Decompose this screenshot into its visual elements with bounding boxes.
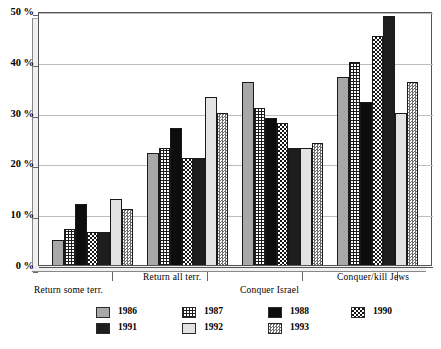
bar: [288, 148, 300, 265]
legend-label: 1992: [204, 322, 223, 332]
bar-chart: 0 %10 %20 %30 %40 %50 % Return some terr…: [0, 0, 441, 349]
y-axis-tick-label: 10 %: [2, 209, 34, 220]
bar: [75, 204, 87, 265]
legend-swatch-icon: [268, 307, 282, 318]
x-axis-category-label: Conquer Israel: [240, 285, 299, 295]
x-axis-tick-mark: [207, 272, 208, 281]
legend-label: 1993: [290, 322, 309, 332]
y-axis-tick-label: 50 %: [2, 6, 34, 17]
bar: [277, 123, 289, 265]
legend-swatch-icon: [351, 307, 365, 318]
bar: [383, 16, 395, 265]
y-axis-tick-label: 30 %: [2, 108, 34, 119]
bar: [159, 148, 171, 265]
legend-label: 1991: [118, 322, 137, 332]
gridline-0: [39, 267, 433, 268]
x-axis-category-label: Return some terr.: [34, 285, 103, 295]
bar: [360, 102, 372, 265]
bar: [395, 113, 407, 265]
bar: [254, 108, 266, 265]
bar: [64, 229, 76, 265]
bar: [182, 158, 194, 265]
y-axis-tick-label: 40 %: [2, 57, 34, 68]
y-axis-tick-label: 0 %: [2, 260, 34, 271]
bar: [122, 209, 134, 265]
legend-swatch-icon: [268, 323, 282, 334]
bar: [265, 118, 277, 265]
legend-swatch-icon: [182, 323, 196, 334]
bar: [193, 158, 205, 265]
y-axis-tick-mark: [33, 272, 38, 273]
bar: [98, 232, 110, 265]
bar: [205, 97, 217, 265]
x-axis-category-label: Return all terr.: [143, 272, 201, 282]
bar: [372, 36, 384, 265]
chart-legend: 1986198719881990199119921993: [96, 307, 366, 337]
bar: [110, 199, 122, 265]
legend-swatch-icon: [96, 307, 110, 318]
x-axis-category-label: Conquer/kill Jews: [337, 272, 409, 282]
bar: [242, 82, 254, 265]
gridline-50: [39, 13, 433, 14]
legend-label: 1990: [373, 306, 392, 316]
bar: [87, 232, 99, 265]
bar: [147, 153, 159, 265]
bar: [217, 113, 229, 265]
bar: [407, 82, 419, 265]
legend-label: 1987: [204, 306, 223, 316]
bar: [300, 148, 312, 265]
plot-area: [38, 12, 432, 266]
legend-swatch-icon: [96, 323, 110, 334]
x-axis-tick-mark: [112, 272, 113, 281]
bar: [337, 77, 349, 265]
legend-label: 1986: [118, 306, 137, 316]
bar: [52, 240, 64, 265]
legend-swatch-icon: [182, 307, 196, 318]
bar: [170, 128, 182, 265]
y-axis-tick-label: 20 %: [2, 158, 34, 169]
x-axis-tick-mark: [302, 272, 303, 281]
bar: [312, 143, 324, 265]
bar: [349, 62, 361, 265]
legend-label: 1988: [290, 306, 309, 316]
